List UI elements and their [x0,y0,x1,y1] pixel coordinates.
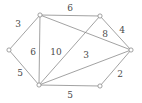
graph-edge [100,50,131,86]
graph-vertex [98,84,102,88]
weighted-graph-figure: 63610548325 [0,0,142,103]
edge-weight-label: 6 [30,48,36,57]
graph-canvas [0,0,142,103]
edge-weight-label: 8 [102,30,108,39]
edge-weight-label: 5 [67,91,73,100]
graph-vertex [38,13,42,17]
graph-edge [40,15,100,16]
graph-vertex [7,48,11,52]
graph-vertex [98,14,102,18]
edge-weight-label: 3 [83,51,89,60]
edge-weight-label: 6 [67,4,73,13]
edge-weight-label: 5 [17,69,23,78]
graph-vertex [129,48,133,52]
graph-edge [9,15,40,50]
graph-edge [39,85,100,86]
graph-edge [39,15,40,85]
edge-weight-label: 10 [50,48,61,57]
edge-weight-label: 3 [15,20,21,29]
graph-vertex [37,83,41,87]
edge-weight-label: 4 [119,26,125,35]
edges-group [9,15,131,86]
edge-weight-label: 2 [117,70,123,79]
